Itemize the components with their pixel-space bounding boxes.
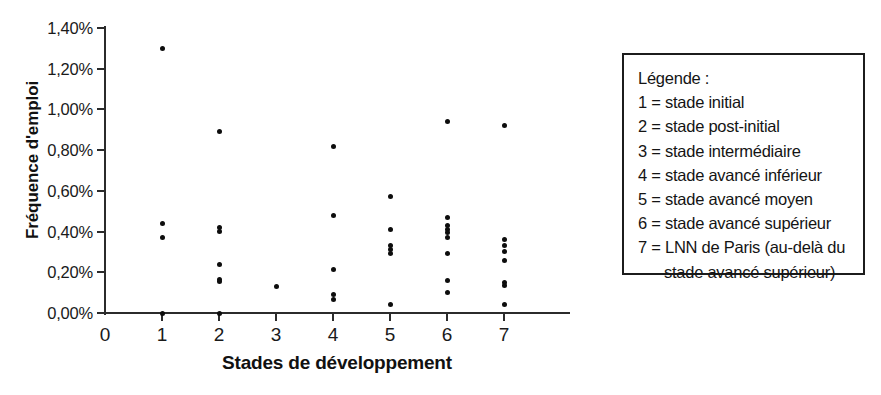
legend-box: Légende : 1 = stade initial2 = stade pos… — [622, 53, 865, 275]
legend-entry: 6 = stade avancé supérieur — [638, 211, 853, 235]
data-point — [217, 129, 222, 134]
y-tick-mark — [97, 149, 105, 151]
legend-entry: stade avancé supérieur) — [638, 260, 853, 284]
data-point — [502, 123, 507, 128]
data-point — [331, 297, 336, 302]
data-point — [445, 290, 450, 295]
plot-area: 0,00%0,20%0,40%0,60%0,80%1,00%1,20%1,40%… — [0, 0, 600, 395]
y-tick-label-wrap: 1,00% — [0, 101, 93, 117]
x-tick-label: 5 — [375, 324, 405, 346]
legend-title: Légende : — [638, 66, 853, 90]
y-tick-label: 0,00% — [5, 305, 93, 321]
x-tick-mark — [275, 314, 277, 321]
y-tick-mark — [97, 231, 105, 233]
y-tick-mark — [97, 271, 105, 273]
y-tick-label: 0,60% — [5, 183, 93, 199]
legend-entry: 1 = stade initial — [638, 90, 853, 114]
data-point — [502, 283, 507, 288]
y-tick-mark — [97, 68, 105, 70]
y-tick-label-wrap: 0,60% — [0, 183, 93, 199]
y-tick-mark — [97, 312, 105, 314]
y-axis-title: Fréquence d'emploi — [23, 45, 43, 275]
y-tick-mark — [97, 190, 105, 192]
y-tick-label: 1,40% — [5, 20, 93, 36]
x-tick-mark — [446, 314, 448, 321]
data-point — [331, 213, 336, 218]
data-point — [160, 235, 165, 240]
x-tick-mark — [389, 314, 391, 321]
data-point — [502, 249, 507, 254]
data-point — [388, 302, 393, 307]
data-point — [445, 235, 450, 240]
scatter-plot-figure: 0,00%0,20%0,40%0,60%0,80%1,00%1,20%1,40%… — [0, 0, 881, 395]
data-point — [388, 251, 393, 256]
data-point — [502, 237, 507, 242]
x-tick-label: 6 — [432, 324, 462, 346]
x-axis-title: Stades de développement — [104, 352, 570, 374]
x-tick-label: 7 — [489, 324, 519, 346]
x-tick-label: 1 — [147, 324, 177, 346]
y-tick-mark — [97, 108, 105, 110]
y-tick-label: 0,20% — [5, 264, 93, 280]
data-point — [160, 46, 165, 51]
data-point — [445, 278, 450, 283]
y-tick-label-wrap: 0,20% — [0, 264, 93, 280]
y-tick-label: 1,20% — [5, 61, 93, 77]
x-axis-line — [104, 312, 570, 314]
x-tick-mark — [503, 314, 505, 321]
legend-entry: 3 = stade intermédiaire — [638, 139, 853, 163]
data-point — [217, 311, 222, 316]
data-point — [217, 279, 222, 284]
data-point — [160, 221, 165, 226]
data-point — [502, 302, 507, 307]
legend-entry: 5 = stade avancé moyen — [638, 187, 853, 211]
data-point — [502, 258, 507, 263]
y-tick-label-wrap: 1,20% — [0, 61, 93, 77]
x-tick-mark — [332, 314, 334, 321]
x-tick-label: 2 — [204, 324, 234, 346]
legend-entry: 7 = LNN de Paris (au-delà du — [638, 235, 853, 259]
data-point — [331, 144, 336, 149]
legend-entries: 1 = stade initial2 = stade post-initial3… — [638, 90, 853, 284]
y-tick-label-wrap: 0,40% — [0, 224, 93, 240]
data-point — [217, 262, 222, 267]
data-point — [445, 251, 450, 256]
x-tick-label: 4 — [318, 324, 348, 346]
y-tick-mark — [97, 27, 105, 29]
data-point — [160, 311, 165, 316]
y-tick-label-wrap: 0,80% — [0, 142, 93, 158]
data-point — [388, 194, 393, 199]
y-tick-label-wrap: 1,40% — [0, 20, 93, 36]
data-point — [445, 119, 450, 124]
y-tick-label: 0,40% — [5, 224, 93, 240]
y-tick-label: 0,80% — [5, 142, 93, 158]
data-point — [388, 227, 393, 232]
x-tick-label: 3 — [261, 324, 291, 346]
y-tick-label-wrap: 0,00% — [0, 305, 93, 321]
x-tick-label: 0 — [90, 324, 120, 346]
legend-entry: 4 = stade avancé inférieur — [638, 163, 853, 187]
data-point — [274, 284, 279, 289]
data-point — [217, 229, 222, 234]
data-point — [502, 243, 507, 248]
data-point — [331, 267, 336, 272]
y-tick-label: 1,00% — [5, 101, 93, 117]
data-point — [445, 215, 450, 220]
legend-entry: 2 = stade post-initial — [638, 114, 853, 138]
